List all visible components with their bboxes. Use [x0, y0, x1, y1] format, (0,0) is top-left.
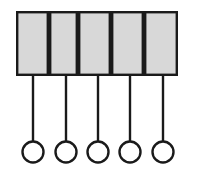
- bar-cells-group: [17, 12, 177, 75]
- bar-cell-5[interactable]: [145, 12, 177, 75]
- diagram-canvas: [0, 0, 198, 176]
- node-circle-1[interactable]: [23, 142, 44, 163]
- bar-cell-2[interactable]: [50, 12, 77, 75]
- bar-cell-4[interactable]: [112, 12, 143, 75]
- bar-cell-1[interactable]: [17, 12, 48, 75]
- node-circle-3[interactable]: [88, 142, 109, 163]
- nodes-group: [23, 142, 174, 163]
- stems-group: [33, 76, 163, 142]
- node-circle-2[interactable]: [56, 142, 77, 163]
- bar-cell-3[interactable]: [79, 12, 110, 75]
- segmented-bar-diagram: [0, 0, 198, 176]
- node-circle-5[interactable]: [153, 142, 174, 163]
- node-circle-4[interactable]: [120, 142, 141, 163]
